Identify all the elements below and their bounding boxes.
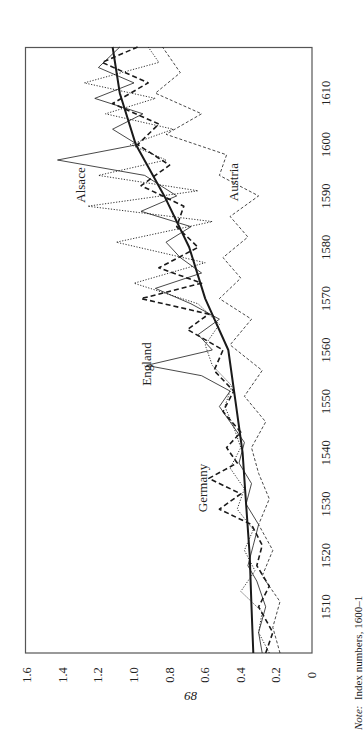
series-line-germany — [102, 47, 273, 653]
value-tick-label: 1.4 — [56, 666, 70, 682]
value-tick-label: 1.2 — [91, 667, 105, 683]
year-axis-tick-labels: 1510152015301540155015601570158015901600… — [319, 81, 333, 620]
label-england: England — [139, 342, 154, 386]
value-tick-label: 0.6 — [198, 667, 212, 683]
year-tick-label: 1610 — [319, 81, 333, 106]
label-germany: Germany — [195, 463, 210, 512]
year-tick-label: 1570 — [319, 286, 333, 311]
value-tick-label: 1.0 — [127, 667, 141, 683]
note-text: Index numbers, 1600–1 — [352, 596, 364, 700]
year-tick-label: 1540 — [319, 440, 333, 465]
label-alsace: Alsace — [73, 167, 88, 203]
note-prefix: Note: — [352, 706, 364, 730]
year-tick-label: 1590 — [319, 183, 333, 208]
year-tick-label: 1550 — [319, 389, 333, 414]
price-index-chart: 00.20.40.60.81.01.21.41.6 15101520153015… — [0, 0, 364, 734]
value-tick-label: 1.6 — [20, 667, 34, 683]
value-axis-tick-labels: 00.20.40.60.81.01.21.41.6 — [20, 666, 319, 682]
series-line-trend — [113, 47, 254, 653]
year-tick-label: 1580 — [319, 235, 333, 260]
value-tick-label: 0.2 — [269, 667, 283, 683]
year-tick-label: 1600 — [319, 132, 333, 157]
series-line-austria — [155, 47, 280, 653]
year-tick-label: 1560 — [319, 338, 333, 363]
series-annotations: Alsace Austria England Germany — [73, 163, 241, 513]
figure-note: Note: Index numbers, 1600–1 — [352, 596, 364, 730]
value-tick-label: 0 — [305, 672, 319, 678]
value-tick-label: 0.8 — [163, 667, 177, 683]
label-austria: Austria — [226, 163, 241, 202]
page-number: 68 — [184, 688, 197, 704]
value-tick-label: 0.4 — [234, 666, 248, 682]
series-layer — [58, 47, 281, 653]
plot-frame — [26, 48, 313, 654]
year-tick-label: 1520 — [319, 543, 333, 568]
series-line-england — [58, 47, 266, 653]
year-tick-label: 1530 — [319, 492, 333, 517]
year-tick-label: 1510 — [319, 594, 333, 619]
